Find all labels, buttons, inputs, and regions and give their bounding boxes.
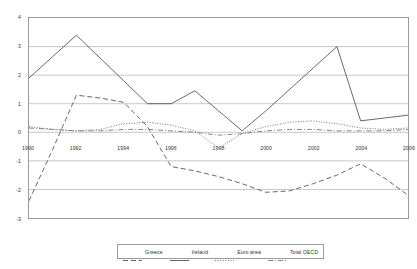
- legend-swatch-total-oecd: [268, 249, 287, 254]
- legend-item[interactable]: Ireland: [170, 249, 209, 255]
- x-tick-label: 2006: [403, 145, 415, 151]
- x-tick-label: 2000: [260, 145, 272, 151]
- legend-label: Total OECD: [290, 249, 318, 255]
- y-axis: 43210-1-2-3: [0, 17, 25, 219]
- x-axis: 199019921994199619982000200220042006: [28, 145, 409, 157]
- y-tick-label: 1: [18, 101, 21, 107]
- y-tick-label: 4: [18, 14, 21, 20]
- y-tick-label: 2: [18, 72, 21, 78]
- plot-area: [28, 17, 409, 219]
- x-tick-label: 1996: [165, 145, 177, 151]
- chart-legend: GreeceIrelandEuro areaTotal OECD: [117, 244, 324, 259]
- x-tick-label: 1990: [22, 145, 34, 151]
- series-line-euro-area: [29, 121, 408, 148]
- x-tick-label: 2004: [355, 145, 367, 151]
- legend-swatch-ireland: [170, 249, 189, 254]
- legend-label: Euro area: [237, 249, 261, 255]
- legend-item[interactable]: Euro area: [215, 249, 261, 255]
- y-tick-label: -2: [16, 187, 21, 193]
- y-tick-label: 3: [18, 43, 21, 49]
- series-line-total-oecd: [29, 128, 408, 135]
- legend-item[interactable]: Total OECD: [268, 249, 318, 255]
- series-line-ireland: [29, 35, 408, 131]
- legend-swatch-euro-area: [215, 249, 234, 254]
- x-tick-label: 1994: [117, 145, 129, 151]
- legend-label: Greece: [145, 249, 163, 255]
- y-tick-label: 0: [18, 129, 21, 135]
- line-chart: 43210-1-2-3 1990199219941996199820002002…: [0, 0, 417, 269]
- legend-label: Ireland: [192, 249, 209, 255]
- series-lines: [29, 18, 408, 218]
- legend-swatch-greece: [123, 249, 142, 254]
- y-tick-label: -3: [16, 216, 21, 222]
- legend-item[interactable]: Greece: [123, 249, 163, 255]
- x-tick-label: 2002: [308, 145, 320, 151]
- y-tick-label: -1: [16, 158, 21, 164]
- x-tick-label: 1998: [213, 145, 225, 151]
- x-tick-label: 1992: [70, 145, 82, 151]
